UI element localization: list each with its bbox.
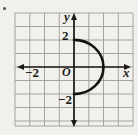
x-tick-label-negative-2: −2 <box>25 66 39 79</box>
x-axis-left-arrow <box>17 64 24 70</box>
x-axis-label: x <box>123 66 130 79</box>
y-tick-label-negative-2: −2 <box>58 93 72 106</box>
y-axis-up-arrow <box>71 13 77 20</box>
origin-label: O <box>62 66 71 78</box>
y-axis <box>71 13 77 127</box>
graph-figure: y x O 2 −2 −2 <box>0 0 138 135</box>
y-axis-label: y <box>64 10 70 23</box>
y-tick-label-2: 2 <box>62 29 69 42</box>
